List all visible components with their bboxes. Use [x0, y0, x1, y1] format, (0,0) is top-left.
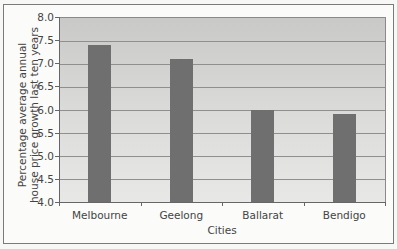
y-tick	[55, 110, 59, 111]
category-label-geelong: Geelong	[141, 209, 221, 221]
bar-melbourne	[88, 45, 111, 202]
bar-geelong	[170, 59, 193, 202]
y-axis-title-line-2: house price growth last ten years	[28, 25, 40, 205]
y-tick	[55, 63, 59, 64]
y-axis	[59, 17, 60, 203]
y-axis-title-line-1: Percentage average annual	[16, 25, 28, 205]
x-axis-title: Cities	[182, 224, 262, 236]
bar-ballarat	[251, 110, 274, 203]
y-tick	[55, 179, 59, 180]
y-tick	[55, 156, 59, 157]
x-tick	[385, 202, 386, 206]
y-tick-label: 8.0	[26, 12, 54, 22]
y-tick	[55, 40, 59, 41]
x-tick	[222, 202, 223, 206]
category-label-melbourne: Melbourne	[60, 209, 140, 221]
y-tick	[55, 133, 59, 134]
x-tick	[59, 202, 60, 206]
category-label-ballarat: Ballarat	[223, 209, 303, 221]
x-tick	[141, 202, 142, 206]
y-tick	[55, 17, 59, 18]
y-tick	[55, 86, 59, 87]
bar-bendigo	[333, 114, 356, 202]
category-label-bendigo: Bendigo	[304, 209, 384, 221]
gridline-7-5	[59, 41, 385, 42]
y-axis-title: Percentage average annual house price gr…	[16, 25, 40, 205]
x-tick	[304, 202, 305, 206]
